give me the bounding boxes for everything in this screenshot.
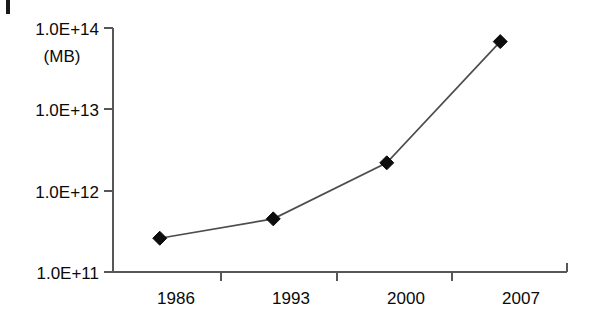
x-axis-label-2007: 2007 bbox=[502, 289, 540, 308]
y-axis-unit-label: (MB) bbox=[44, 47, 81, 66]
x-axis-label-2000: 2000 bbox=[387, 289, 425, 308]
y-axis-label-1e12: 1.0E+12 bbox=[35, 183, 99, 202]
series-markers bbox=[153, 35, 508, 246]
y-axis-label-1e13: 1.0E+13 bbox=[35, 101, 99, 120]
x-axis-label-1986: 1986 bbox=[157, 289, 195, 308]
series-line bbox=[160, 42, 501, 239]
line-chart: 1.0E+14 (MB) 1.0E+13 1.0E+12 1.0E+11 198… bbox=[0, 0, 593, 323]
x-axis-label-1993: 1993 bbox=[272, 289, 310, 308]
data-point-marker bbox=[266, 212, 280, 226]
y-axis-label-1e14: 1.0E+14 bbox=[35, 20, 99, 39]
chart-canvas: 1.0E+14 (MB) 1.0E+13 1.0E+12 1.0E+11 198… bbox=[0, 0, 593, 323]
y-axis-label-1e11: 1.0E+11 bbox=[36, 264, 99, 283]
data-point-marker bbox=[153, 231, 167, 245]
